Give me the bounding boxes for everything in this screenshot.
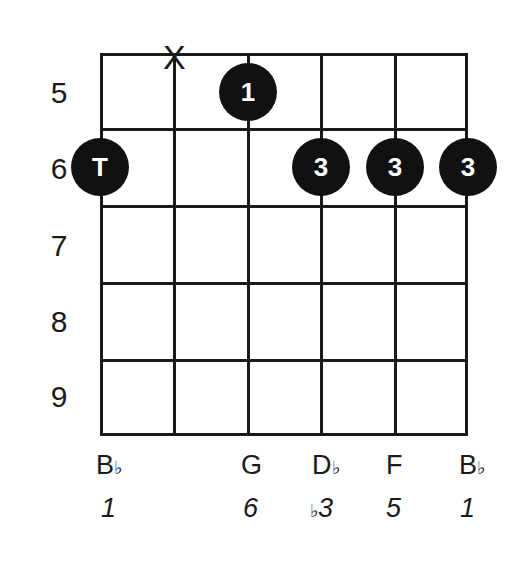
scale-degree: 1 [460, 493, 475, 523]
flat-icon: ♭ [114, 458, 122, 478]
flat-icon: ♭ [477, 458, 485, 478]
fretboard-grid [100, 53, 468, 436]
fret-line [100, 282, 468, 285]
finger-dot: 1 [219, 63, 277, 121]
scale-degree: 1 [101, 493, 116, 523]
note-name: F [386, 450, 403, 480]
scale-degree: 6 [243, 493, 258, 523]
note-name: B♭ [459, 450, 485, 483]
finger-dot: 3 [439, 138, 497, 196]
fret-number: 8 [44, 307, 74, 337]
fret-line [100, 205, 468, 208]
muted-string-icon: X [163, 40, 186, 74]
fret-line [100, 128, 468, 131]
string-line [394, 53, 397, 436]
fret-number: 5 [44, 78, 74, 108]
scale-degree: ♭3 [310, 493, 333, 526]
string-line [173, 53, 176, 436]
scale-degree: 5 [386, 493, 401, 523]
note-letter: G [241, 450, 262, 480]
note-letter: D [312, 450, 332, 480]
finger-dot-thumb: T [71, 138, 129, 196]
flat-icon: ♭ [310, 501, 318, 521]
fret-number: 9 [44, 382, 74, 412]
string-line [320, 53, 323, 436]
note-name: B♭ [96, 450, 122, 483]
finger-dot: 3 [366, 138, 424, 196]
note-name: G [241, 450, 262, 480]
note-letter: B [459, 450, 477, 480]
finger-dot: 3 [292, 138, 350, 196]
fret-number: 7 [44, 231, 74, 261]
note-letter: F [386, 450, 403, 480]
fret-number: 6 [44, 154, 74, 184]
degree-number: 3 [318, 493, 333, 523]
note-name: D♭ [312, 450, 340, 483]
note-letter: B [96, 450, 114, 480]
fret-line [100, 359, 468, 362]
flat-icon: ♭ [332, 458, 340, 478]
